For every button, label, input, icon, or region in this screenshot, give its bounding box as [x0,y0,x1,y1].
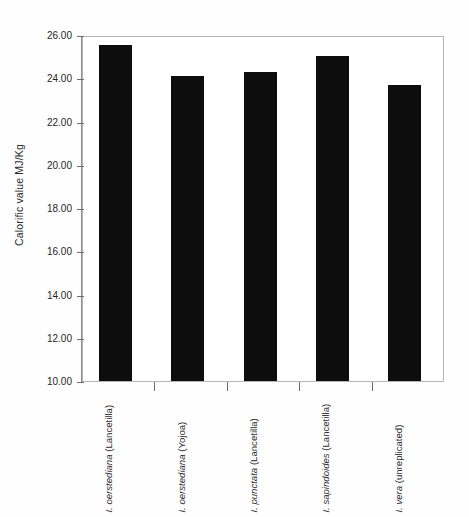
species-name: I. sapindoides [321,454,332,513]
x-axis-label-text: I. oerstediana (Yojoa) [177,422,187,513]
y-axis-tick-label: 22.00 [47,117,72,128]
bar [171,76,204,381]
x-axis-label: I. sapindoides (Lancetilla) [323,393,339,513]
y-axis-tick-mark [77,79,84,80]
site-name: (unreplicated) [393,425,404,486]
y-axis-tick-mark [77,209,84,210]
y-axis-tick-label: 20.00 [47,160,72,171]
x-axis-tick-mark [299,382,300,391]
x-axis-tick-mark [372,382,373,391]
x-axis-label: I. oerstediana (Lancetilla) [106,393,122,513]
y-axis-tick-label: 24.00 [47,73,72,84]
y-axis-tick-label: 16.00 [47,246,72,257]
species-name: I. vera [393,486,404,513]
bar [244,72,277,381]
species-name: I. punctata [248,468,259,513]
y-axis-tick-label: 12.00 [47,333,72,344]
y-axis-tick-mark [77,382,84,383]
x-axis-tick-mark [154,382,155,391]
bar [316,56,349,381]
species-name: I. oerstediana [104,455,115,513]
y-axis-tick-label: 10.00 [47,376,72,387]
x-axis-tick-mark [227,382,228,391]
y-axis-tick-label: 18.00 [47,203,72,214]
site-name: (Lancetilla) [248,419,259,469]
species-name: I. oerstediana [176,455,187,513]
y-axis-tick-label: 26.00 [47,30,72,41]
y-axis-tick-label: 14.00 [47,290,72,301]
y-axis-title-text: Calorific value MJ/Kg [13,144,25,246]
y-axis-tick-mark [77,296,84,297]
bar-chart-figure: Calorific value MJ/Kg 26.0024.0022.0020.… [0,0,469,517]
site-name: (Yojoa) [176,422,187,455]
x-axis-label-text: I. sapindoides (Lancetilla) [322,404,332,513]
y-axis-tick-mark [77,36,84,37]
x-axis-label: I. vera (unreplicated) [396,393,412,513]
x-axis-label-text: I. oerstediana (Lancetilla) [105,405,115,513]
y-axis-tick-mark [77,123,84,124]
x-axis-label-text: I. punctata (Lancetilla) [249,419,259,513]
y-axis-title: Calorific value MJ/Kg [0,0,38,390]
site-name: (Lancetilla) [321,404,332,454]
site-name: (Lancetilla) [104,405,115,455]
x-axis-label: I. punctata (Lancetilla) [251,393,267,513]
bar [99,45,132,381]
y-axis-tick-mark [77,166,84,167]
x-axis-label-text: I. vera (unreplicated) [394,425,404,513]
y-axis-tick-mark [77,252,84,253]
x-axis-label: I. oerstediana (Yojoa) [179,393,195,513]
plot-area: 26.0024.0022.0020.0018.0016.0014.0012.00… [82,36,444,382]
y-axis-tick-mark [77,339,84,340]
bar [388,85,421,381]
